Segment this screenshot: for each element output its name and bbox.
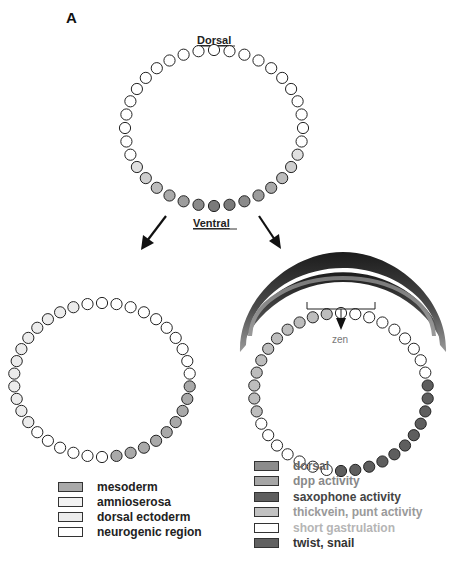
embryo-cell <box>415 418 426 429</box>
embryo-cell <box>350 309 361 320</box>
embryo-cell <box>249 380 260 391</box>
embryo-cell <box>208 44 219 55</box>
legend-label: dorsal <box>293 459 329 473</box>
embryo-cell <box>164 190 175 201</box>
legend-label: neurogenic region <box>97 525 202 539</box>
embryo-cell <box>266 182 277 193</box>
embryo-cell <box>11 356 22 367</box>
embryo-cell <box>266 63 277 74</box>
embryo-cell <box>415 355 426 366</box>
embryo-cell <box>178 49 189 60</box>
zen-arrow-icon <box>336 318 346 330</box>
embryo-cell <box>151 63 162 74</box>
embryo-cell <box>68 447 79 458</box>
embryo-cell <box>140 72 151 83</box>
legend-item-twist-snail: twist, snail <box>254 536 422 552</box>
embryo-cell <box>286 161 297 172</box>
embryo-cell <box>125 302 136 313</box>
legend-item-short-gastrulation: short gastrulation <box>254 520 422 536</box>
embryo-cell <box>151 182 162 193</box>
legend-tissues: mesoderm amnioserosa dorsal ectoderm neu… <box>58 479 202 539</box>
embryo-cell <box>42 435 53 446</box>
embryo-fate-map <box>9 297 196 462</box>
swatch-thickvein-punt-activity <box>254 507 279 517</box>
embryo-cell <box>119 122 130 133</box>
embryo-cell <box>297 122 308 133</box>
legend-label: twist, snail <box>293 536 354 550</box>
swatch-dorsal <box>254 461 279 471</box>
embryo-cell <box>161 322 172 333</box>
legend-label: short gastrulation <box>293 521 395 535</box>
embryo-cell <box>408 343 419 354</box>
arrow-right-icon <box>259 216 281 249</box>
embryo-cell <box>256 418 267 429</box>
embryo-cell <box>182 356 193 367</box>
legend-label: amnioserosa <box>97 495 171 509</box>
swatch-dpp-activity <box>254 476 279 486</box>
embryo-cell <box>271 333 282 344</box>
embryo-cell <box>184 368 195 379</box>
embryo-cell <box>121 136 132 147</box>
embryo-cell <box>399 333 410 344</box>
embryo-cell <box>138 442 149 453</box>
embryo-cell <box>161 427 172 438</box>
embryo-cell <box>296 109 307 120</box>
panel-label: A <box>66 9 77 26</box>
embryo-cell <box>68 302 79 313</box>
embryo-cell <box>125 149 136 160</box>
embryo-cell <box>277 72 288 83</box>
embryo-cell <box>151 435 162 446</box>
swatch-dorsal-ectoderm <box>58 512 83 522</box>
embryo-cell <box>82 450 93 461</box>
embryo-cell <box>42 314 53 325</box>
embryo-gene-activity <box>249 307 434 476</box>
swatch-saxophone-activity <box>254 492 279 502</box>
embryo-cell <box>296 136 307 147</box>
embryo-cell <box>138 307 149 318</box>
embryo-cell <box>263 343 274 354</box>
embryo-cell <box>177 344 188 355</box>
swatch-amnioserosa <box>58 497 83 507</box>
embryo-cell <box>420 406 431 417</box>
embryo-initial <box>119 44 308 211</box>
embryo-cell <box>170 417 181 428</box>
legend-item-mesoderm: mesoderm <box>58 479 202 494</box>
embryo-cell <box>125 447 136 458</box>
embryo-cell <box>294 317 305 328</box>
zen-label: zen <box>332 334 348 345</box>
embryo-cell <box>23 417 34 428</box>
embryo-cell <box>125 96 136 107</box>
embryo-cell <box>282 324 293 335</box>
embryo-cell <box>286 83 297 94</box>
legend-label: thickvein, punt activity <box>293 505 422 519</box>
ventral-label: Ventral <box>193 217 230 229</box>
embryo-cell <box>9 381 20 392</box>
embryo-cell <box>208 200 219 211</box>
embryo-cell <box>111 299 122 310</box>
embryo-cell <box>131 83 142 94</box>
embryo-cell <box>164 55 175 66</box>
embryo-cell <box>389 324 400 335</box>
embryo-cell <box>55 307 66 318</box>
embryo-cell <box>377 317 388 328</box>
embryo-cell <box>251 367 262 378</box>
embryo-cell <box>9 368 20 379</box>
legend-item-thickvein-punt-activity: thickvein, punt activity <box>254 505 422 521</box>
embryo-cell <box>23 332 34 343</box>
embryo-cell <box>32 322 43 333</box>
embryo-cell <box>399 440 410 451</box>
embryo-cell <box>251 406 262 417</box>
embryo-cell <box>193 46 204 57</box>
embryo-cell <box>364 312 375 323</box>
swatch-twist-snail <box>254 538 279 548</box>
legend-genes: dorsal dpp activity saxophone activity t… <box>254 458 422 551</box>
legend-item-dorsal: dorsal <box>254 458 422 474</box>
embryo-cell <box>184 381 195 392</box>
embryo-cell <box>170 332 181 343</box>
embryo-cell <box>263 430 274 441</box>
legend-item-dpp-activity: dpp activity <box>254 474 422 490</box>
embryo-cell <box>239 196 250 207</box>
legend-label: dpp activity <box>293 474 360 488</box>
embryo-cell <box>422 393 433 404</box>
embryo-cell <box>271 440 282 451</box>
